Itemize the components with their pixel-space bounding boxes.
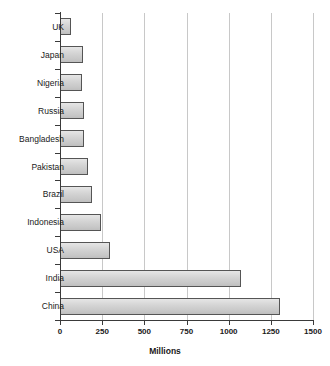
y-axis-tick — [55, 153, 61, 154]
x-axis-tick-label: 1500 — [304, 327, 322, 337]
y-axis-tick — [55, 97, 61, 98]
y-axis-tick-label: Bangladesh — [19, 134, 64, 144]
y-axis-tick-label: UK — [52, 22, 64, 32]
x-axis-tick — [102, 320, 103, 325]
x-axis-tick-label: 1000 — [220, 327, 238, 337]
bar — [60, 214, 101, 231]
plot-area — [60, 13, 313, 320]
y-axis-tick-label: Nigeria — [37, 78, 64, 88]
y-axis-tick — [55, 13, 61, 14]
bar — [60, 298, 280, 315]
y-axis-tick-label: Brazil — [43, 189, 64, 199]
y-axis-tick-label: China — [42, 301, 64, 311]
x-axis-tick — [187, 320, 188, 325]
y-axis-tick — [55, 125, 61, 126]
x-axis-title: Millions — [0, 346, 330, 356]
y-axis-tick — [55, 41, 61, 42]
bar — [60, 270, 241, 287]
y-axis-tick — [55, 292, 61, 293]
y-axis-tick-label: USA — [47, 245, 64, 255]
x-axis-tick-label: 250 — [95, 327, 108, 337]
x-axis-tick — [271, 320, 272, 325]
x-axis-tick-label: 500 — [138, 327, 151, 337]
y-axis-tick-label: Russia — [38, 106, 64, 116]
bar — [60, 186, 92, 203]
x-axis-tick — [144, 320, 145, 325]
y-axis-tick — [55, 69, 61, 70]
x-axis-tick-label: 0 — [58, 327, 62, 337]
x-axis-tick — [229, 320, 230, 325]
gridline — [313, 13, 314, 320]
y-axis-tick — [55, 236, 61, 237]
x-axis-tick — [313, 320, 314, 325]
x-axis-tick-label: 1250 — [262, 327, 280, 337]
y-axis-tick-label: India — [46, 273, 64, 283]
bar-chart: UKJapanNigeriaRussiaBangladeshPakistanBr… — [0, 0, 330, 366]
y-axis-tick — [55, 180, 61, 181]
y-axis-tick-label: Pakistan — [31, 162, 64, 172]
y-axis-tick — [55, 208, 61, 209]
y-axis-tick-label: Japan — [41, 50, 64, 60]
y-axis-tick-label: Indonesia — [27, 217, 64, 227]
y-axis-tick — [55, 264, 61, 265]
x-axis-tick-label: 750 — [180, 327, 193, 337]
bar — [60, 242, 110, 259]
gridline — [271, 13, 272, 320]
x-axis-tick — [60, 320, 61, 325]
bar — [60, 158, 88, 175]
